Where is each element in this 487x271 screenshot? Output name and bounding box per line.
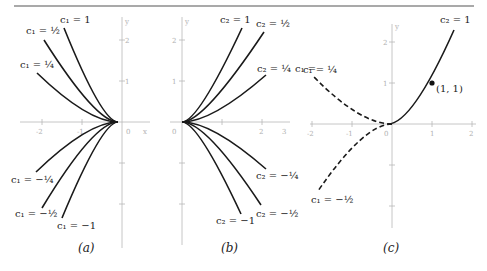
point-1-1 — [429, 80, 434, 85]
label-c2-1: c₂ = 1 — [440, 14, 471, 25]
x-axis-label: x — [143, 128, 147, 136]
panel-c: -2 -1 0 1 2 y 2 1 (1, 1) c₂ = 1 c₁ = ¼ c… — [303, 14, 476, 255]
figure: -2 -1 0 x y 2 1 c₁ = 1 c₁ = ½ c₁ = ¼ c₁ … — [0, 0, 487, 271]
curve-c1-quarter — [37, 73, 118, 122]
label-c1-neg-half: c₁ = −½ — [15, 208, 58, 219]
label-c1-half: c₁ = ½ — [26, 25, 60, 36]
curve-c2-1 — [388, 30, 454, 124]
curve-c1-quarter-dashed — [314, 77, 392, 124]
y-tick-label: 2 — [125, 37, 129, 45]
y-axis-label: y — [394, 23, 399, 31]
curve-c1-1 — [64, 28, 118, 122]
x-tick-label: 0 — [126, 128, 130, 136]
y-tick-label: 1 — [383, 80, 387, 88]
label-c1-neg-1: c₁ = −1 — [57, 220, 96, 231]
curve-c2-neg-1 — [182, 122, 241, 214]
y-tick-label: 2 — [383, 39, 387, 47]
x-tick-label: 0 — [172, 128, 176, 136]
x-tick-label: 1 — [430, 130, 434, 138]
label-c2-neg-quarter: c₂ = −¼ — [256, 170, 299, 181]
curve-c1-neg-half-dashed — [318, 124, 392, 191]
label-c2-quarter: c₂ = ¼ — [257, 63, 291, 74]
curve-c1-half — [44, 40, 118, 122]
y-axis-label: y — [184, 18, 189, 26]
x-tick-label: -2 — [307, 130, 314, 138]
label-c2-1: c₂ = 1 — [220, 14, 251, 25]
label-c2-neg-1: c₂ = −1 — [216, 215, 255, 226]
x-tick-label: -1 — [346, 130, 353, 138]
curve-c2-quarter — [182, 75, 266, 122]
curve-c2-half — [182, 32, 264, 122]
label-c1-quarter: c₁ = ¼ — [20, 59, 54, 70]
caption-c: (c) — [383, 241, 399, 255]
label-c1-1: c₁ = 1 — [60, 14, 91, 25]
label-c2-neg-half: c₂ = −½ — [256, 208, 299, 219]
x-tick-label: 2 — [469, 130, 473, 138]
curve-c1-neg-1 — [62, 122, 118, 218]
y-tick-label: 2 — [172, 37, 176, 45]
x-tick-label: 0 — [384, 130, 388, 138]
curve-c2-neg-quarter — [182, 122, 266, 169]
y-tick-label: 1 — [172, 78, 176, 86]
label-point: (1, 1) — [436, 83, 463, 94]
panel-b: 0 2 3 y 2 1 c₂ = 1 c₂ = ½ c₂ = ¼ c₁ = c₂… — [170, 14, 316, 255]
caption-b: (b) — [221, 241, 238, 255]
label-c2-half: c₂ = ½ — [256, 18, 290, 29]
panel-a: -2 -1 0 x y 2 1 c₁ = 1 c₁ = ½ c₁ = ¼ c₁ … — [11, 14, 150, 255]
label-c1-neg-half: c₁ = −½ — [311, 194, 354, 205]
x-tick-label: 3 — [282, 128, 286, 136]
label-c1-quarter: c₁ = ¼ — [303, 64, 337, 75]
label-c1-neg-quarter: c₁ = −¼ — [11, 174, 54, 185]
y-axis-label: y — [124, 18, 129, 26]
x-tick-label: -2 — [36, 128, 43, 136]
caption-a: (a) — [78, 241, 95, 255]
curve-c2-neg-half — [182, 122, 261, 205]
y-tick-label: 1 — [125, 78, 129, 86]
x-tick-label: 2 — [259, 128, 263, 136]
